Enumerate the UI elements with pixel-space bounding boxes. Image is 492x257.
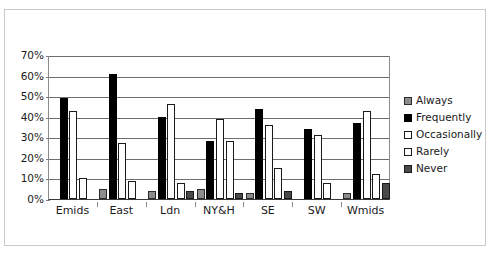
y-tick-label: 60%: [4, 71, 44, 81]
legend-label: Always: [416, 94, 453, 106]
bar-group: [244, 57, 293, 199]
bar-rarely-nyh: [226, 141, 234, 199]
bar-always-se: [246, 193, 254, 199]
bar-always-wmids: [343, 193, 351, 199]
x-axis-separator: [97, 202, 98, 207]
x-tick-label-wmids: Wmids: [341, 204, 390, 217]
x-axis-separator: [243, 202, 244, 207]
legend-item-rarely[interactable]: Rarely: [404, 141, 488, 158]
bar-never-ldn: [186, 191, 194, 199]
x-axis-labels: EmidsEastLdnNY&HSESWWmids: [48, 202, 390, 222]
y-tick-label: 70%: [4, 50, 44, 60]
bar-groups: [49, 57, 389, 199]
bar-group: [147, 57, 196, 199]
bar-never-se: [284, 191, 292, 199]
legend-label: Frequently: [416, 111, 472, 123]
legend-swatch-rarely-icon: [404, 148, 412, 156]
bar-frequently-nyh: [206, 141, 214, 199]
chart-legend: AlwaysFrequentlyOccasionallyRarelyNever: [404, 90, 488, 175]
y-tick-label: 20%: [4, 153, 44, 163]
y-tick-label: 50%: [4, 91, 44, 101]
bar-frequently-sw: [304, 129, 312, 199]
bar-always-ldn: [148, 191, 156, 199]
x-axis-separator: [146, 202, 147, 207]
legend-item-always[interactable]: Always: [404, 90, 488, 107]
bar-group: [98, 57, 147, 199]
y-tick-label: 40%: [4, 112, 44, 122]
x-axis-separator: [292, 202, 293, 207]
legend-item-never[interactable]: Never: [404, 158, 488, 175]
bar-group: [342, 57, 391, 199]
x-axis-separator: [341, 202, 342, 207]
bar-frequently-wmids: [353, 123, 361, 199]
bar-occasionally-wmids: [363, 111, 371, 199]
legend-swatch-never-icon: [404, 165, 412, 173]
legend-item-frequently[interactable]: Frequently: [404, 107, 488, 124]
y-tick-label: 10%: [4, 173, 44, 183]
bar-rarely-emids: [79, 178, 87, 199]
x-tick-label-ldn: Ldn: [146, 204, 195, 217]
legend-swatch-frequently-icon: [404, 114, 412, 122]
bar-group: [293, 57, 342, 199]
bar-group: [196, 57, 245, 199]
bar-chart-figure: 0%10%20%30%40%50%60%70% EmidsEastLdnNY&H…: [0, 0, 492, 257]
y-tick-label: 0%: [4, 194, 44, 204]
bar-rarely-wmids: [372, 174, 380, 199]
bar-rarely-ldn: [177, 183, 185, 199]
x-axis-separator: [195, 202, 196, 207]
bar-always-east: [99, 189, 107, 199]
bar-rarely-se: [274, 168, 282, 199]
bar-rarely-sw: [323, 183, 331, 199]
bar-frequently-east: [109, 74, 117, 199]
bar-occasionally-nyh: [216, 119, 224, 199]
bar-frequently-emids: [60, 98, 68, 199]
y-axis: 0%10%20%30%40%50%60%70%: [2, 0, 44, 257]
bar-occasionally-emids: [69, 111, 77, 199]
bar-occasionally-ldn: [167, 104, 175, 199]
legend-swatch-always-icon: [404, 97, 412, 105]
legend-label: Never: [416, 162, 447, 174]
bar-occasionally-se: [265, 125, 273, 199]
x-tick-label-nyh: NY&H: [195, 204, 244, 217]
plot-area: [48, 56, 390, 200]
legend-item-occasionally[interactable]: Occasionally: [404, 124, 488, 141]
y-tick-label: 30%: [4, 132, 44, 142]
legend-label: Rarely: [416, 145, 449, 157]
y-tick-mark: [46, 200, 50, 201]
x-tick-label-east: East: [97, 204, 146, 217]
bar-occasionally-east: [118, 143, 126, 199]
x-tick-label-sw: SW: [292, 204, 341, 217]
legend-label: Occasionally: [416, 128, 482, 140]
bar-never-wmids: [382, 183, 390, 199]
bar-frequently-se: [255, 109, 263, 200]
x-tick-label-emids: Emids: [48, 204, 97, 217]
x-tick-label-se: SE: [243, 204, 292, 217]
bar-always-nyh: [197, 189, 205, 199]
bar-never-nyh: [235, 193, 243, 199]
legend-swatch-occasionally-icon: [404, 131, 412, 139]
bar-frequently-ldn: [158, 117, 166, 199]
bar-occasionally-sw: [314, 135, 322, 199]
bar-group: [49, 57, 98, 199]
bar-rarely-east: [128, 181, 136, 200]
